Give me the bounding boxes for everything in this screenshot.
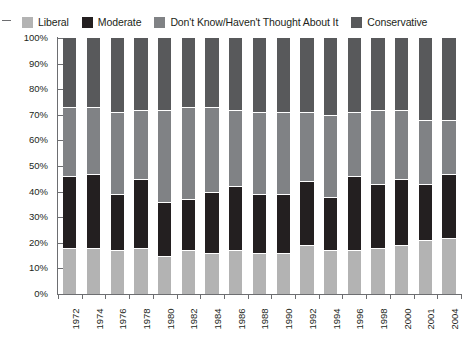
bar-segment[interactable] bbox=[395, 179, 408, 246]
bar-segment[interactable] bbox=[134, 38, 147, 110]
bar-segment[interactable] bbox=[371, 184, 384, 248]
bar-segment[interactable] bbox=[348, 112, 361, 176]
bar-segment[interactable] bbox=[182, 250, 195, 294]
bar-segment[interactable] bbox=[182, 199, 195, 250]
stacked-bar[interactable] bbox=[442, 38, 455, 294]
x-label-slot: 2004 bbox=[437, 302, 461, 344]
bar-segment[interactable] bbox=[134, 179, 147, 248]
bar-segment[interactable] bbox=[419, 38, 432, 120]
bar-segment[interactable] bbox=[229, 186, 242, 250]
bar-segment[interactable] bbox=[158, 256, 171, 294]
bar-segment[interactable] bbox=[395, 38, 408, 110]
bar-segment[interactable] bbox=[229, 38, 242, 110]
x-label-slot: 1976 bbox=[105, 302, 129, 344]
bar-segment[interactable] bbox=[277, 194, 290, 253]
stacked-bar[interactable] bbox=[111, 38, 124, 294]
bar-segment[interactable] bbox=[111, 112, 124, 194]
bar-segment[interactable] bbox=[253, 38, 266, 112]
bar-segment[interactable] bbox=[300, 181, 313, 245]
bar-segment[interactable] bbox=[134, 248, 147, 294]
y-tick-label: 50% bbox=[29, 160, 48, 171]
bar-segment[interactable] bbox=[277, 38, 290, 112]
bar-segment[interactable] bbox=[205, 38, 218, 107]
bar-segment[interactable] bbox=[111, 250, 124, 294]
bar-segment[interactable] bbox=[324, 197, 337, 251]
stacked-bar[interactable] bbox=[419, 38, 432, 294]
bar-segment[interactable] bbox=[371, 38, 384, 110]
bar-segment[interactable] bbox=[87, 107, 100, 174]
x-label-slot: 1972 bbox=[58, 302, 82, 344]
bar-segment[interactable] bbox=[371, 110, 384, 184]
bar-segment[interactable] bbox=[63, 38, 76, 107]
bar-segment[interactable] bbox=[87, 38, 100, 107]
bar-segment[interactable] bbox=[158, 202, 171, 256]
bar-segment[interactable] bbox=[253, 194, 266, 253]
x-axis-labels: 1972197419761978198019821984198619881990… bbox=[58, 302, 461, 344]
bar-segment[interactable] bbox=[134, 110, 147, 179]
bar-segment[interactable] bbox=[442, 174, 455, 238]
bar-segment[interactable] bbox=[205, 107, 218, 191]
bar-segment[interactable] bbox=[111, 194, 124, 250]
bar-segment[interactable] bbox=[371, 248, 384, 294]
stacked-bar[interactable] bbox=[371, 38, 384, 294]
legend-label-liberal: Liberal bbox=[38, 17, 69, 28]
bar-segment[interactable] bbox=[158, 110, 171, 202]
stacked-bar[interactable] bbox=[253, 38, 266, 294]
bar-segment[interactable] bbox=[419, 240, 432, 294]
bar-segment[interactable] bbox=[348, 250, 361, 294]
bar-segment[interactable] bbox=[395, 245, 408, 294]
bar-segment[interactable] bbox=[63, 248, 76, 294]
bar-segment[interactable] bbox=[253, 253, 266, 294]
bar-segment[interactable] bbox=[111, 38, 124, 112]
legend-swatch-liberal bbox=[22, 17, 33, 28]
x-label-slot: 1994 bbox=[319, 302, 343, 344]
bar-segment[interactable] bbox=[442, 38, 455, 120]
stacked-bar[interactable] bbox=[277, 38, 290, 294]
bar-segment[interactable] bbox=[324, 38, 337, 115]
bar-segment[interactable] bbox=[63, 107, 76, 176]
bar-segment[interactable] bbox=[419, 184, 432, 240]
x-tick-label: 1980 bbox=[165, 308, 176, 329]
bar-segment[interactable] bbox=[442, 238, 455, 294]
bar-segment[interactable] bbox=[63, 176, 76, 248]
bar-segment[interactable] bbox=[348, 176, 361, 250]
bar-segment[interactable] bbox=[158, 38, 171, 110]
bar-segment[interactable] bbox=[229, 110, 242, 187]
legend-row-tick-mark bbox=[2, 20, 11, 21]
stacked-bar[interactable] bbox=[158, 38, 171, 294]
bar-segment[interactable] bbox=[324, 115, 337, 197]
bar-segment[interactable] bbox=[442, 120, 455, 174]
bar-segment[interactable] bbox=[182, 107, 195, 199]
stacked-bar[interactable] bbox=[134, 38, 147, 294]
bar-segment[interactable] bbox=[253, 112, 266, 194]
bar-segment[interactable] bbox=[205, 253, 218, 294]
stacked-bar[interactable] bbox=[63, 38, 76, 294]
x-tick-mark bbox=[200, 294, 201, 299]
stacked-bar[interactable] bbox=[182, 38, 195, 294]
bar-segment[interactable] bbox=[300, 245, 313, 294]
bar-segment[interactable] bbox=[300, 112, 313, 181]
stacked-bar[interactable] bbox=[324, 38, 337, 294]
bar-segment[interactable] bbox=[205, 192, 218, 253]
bar-segment[interactable] bbox=[348, 38, 361, 112]
bar-slot bbox=[58, 38, 82, 294]
bar-segment[interactable] bbox=[87, 174, 100, 248]
stacked-bar[interactable] bbox=[300, 38, 313, 294]
bar-segment[interactable] bbox=[324, 250, 337, 294]
stacked-bar[interactable] bbox=[87, 38, 100, 294]
stacked-bar[interactable] bbox=[348, 38, 361, 294]
bar-segment[interactable] bbox=[395, 110, 408, 179]
stacked-bar[interactable] bbox=[395, 38, 408, 294]
x-tick-mark bbox=[295, 294, 296, 299]
bar-segment[interactable] bbox=[182, 38, 195, 107]
bar-segment[interactable] bbox=[300, 38, 313, 112]
x-label-slot: 1978 bbox=[129, 302, 153, 344]
bar-segment[interactable] bbox=[277, 112, 290, 194]
bar-segment[interactable] bbox=[419, 120, 432, 184]
bar-segment[interactable] bbox=[277, 253, 290, 294]
bar-segment[interactable] bbox=[229, 250, 242, 294]
bar-slot bbox=[390, 38, 414, 294]
stacked-bar[interactable] bbox=[205, 38, 218, 294]
bar-segment[interactable] bbox=[87, 248, 100, 294]
stacked-bar[interactable] bbox=[229, 38, 242, 294]
